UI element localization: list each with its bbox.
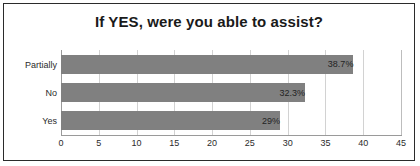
- tick-label: 10: [132, 138, 142, 148]
- tick-label: 40: [358, 138, 368, 148]
- x-axis-line: [61, 135, 402, 136]
- category-label: Partially: [5, 60, 57, 70]
- gridline: [401, 50, 402, 135]
- bar-row[interactable]: 38.7%: [61, 55, 401, 74]
- tick-label: 20: [207, 138, 217, 148]
- bar-row[interactable]: 29%: [61, 111, 401, 130]
- bar-value-label: 32.3%: [61, 88, 309, 98]
- tick-label: 35: [320, 138, 330, 148]
- chart-frame: If YES, were you able to assist? Partial…: [3, 3, 415, 161]
- bar-row[interactable]: 32.3%: [61, 83, 401, 102]
- category-axis-labels: PartiallyNoYes: [4, 50, 57, 135]
- tick-label: 15: [169, 138, 179, 148]
- bar-value-label: 38.7%: [61, 59, 357, 69]
- chart-title: If YES, were you able to assist?: [4, 13, 414, 30]
- tick-label: 5: [96, 138, 101, 148]
- x-axis-tick-labels: 051015202530354045: [61, 138, 402, 152]
- category-label: Yes: [5, 116, 57, 126]
- category-label: No: [5, 88, 57, 98]
- tick-label: 45: [396, 138, 406, 148]
- tick-label: 0: [58, 138, 63, 148]
- tick-label: 25: [245, 138, 255, 148]
- bar-value-label: 29%: [61, 116, 284, 126]
- tick-label: 30: [283, 138, 293, 148]
- plot-area: 38.7%32.3%29%: [61, 50, 401, 135]
